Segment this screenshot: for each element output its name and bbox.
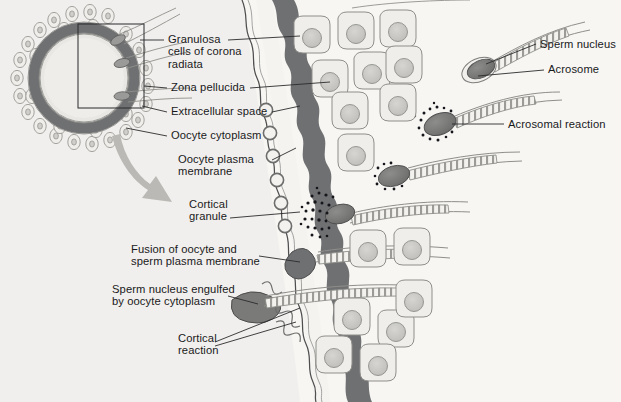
label-acrosome: Acrosome [548,63,599,75]
label-sperm-nucleus: Sperm nucleus [540,38,616,50]
label-granulosa: Granulosa cells of corona radiata [168,33,242,70]
label-cortical-granule: Cortical granule [189,198,228,223]
diagram-artwork [0,0,621,402]
label-oocyte-cytoplasm: Oocyte cytoplasm [171,129,262,141]
label-cortical-reaction: Cortical reaction [178,332,219,357]
label-acrosomal-reaction: Acrosomal reaction [508,118,606,130]
fertilization-diagram: Granulosa cells of corona radiata Zona p… [0,0,621,402]
label-zona-pellucida: Zona pellucida [171,81,245,93]
label-extracellular-space: Extracellular space [171,105,267,117]
label-oocyte-plasma-membrane: Oocyte plasma membrane [178,153,254,178]
label-fusion: Fusion of oocyte and sperm plasma membra… [131,243,260,268]
label-sperm-engulfed: Sperm nucleus engulfed by oocyte cytopla… [112,283,235,308]
